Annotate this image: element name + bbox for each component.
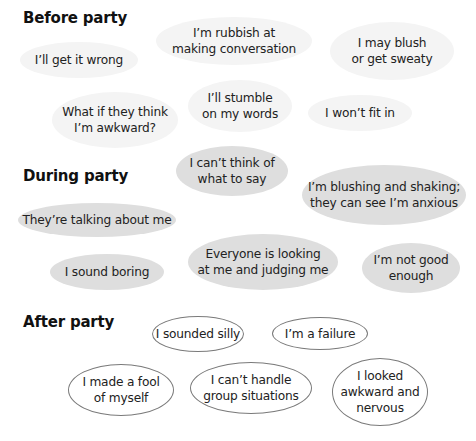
thought-bubble-during: I’m blushing and shaking; they can see I…: [302, 165, 466, 225]
thought-bubble-before: I’m rubbish at making conversation: [156, 17, 312, 65]
thought-text: I can’t handle group situations: [203, 372, 298, 404]
thought-bubble-during: I sound boring: [50, 254, 164, 290]
thought-bubble-during: I can’t think of what to say: [176, 146, 288, 196]
thought-text: What if they think I’m awkward?: [62, 104, 168, 136]
thought-bubble-after: I sounded silly: [152, 316, 244, 352]
thought-text: I sound boring: [65, 264, 150, 280]
thought-text: I made a fool of myself: [82, 374, 159, 406]
thought-text: I’ll get it wrong: [35, 52, 123, 68]
thought-text: I may blush or get sweaty: [352, 35, 433, 67]
thought-text: I won’t fit in: [325, 105, 395, 121]
thought-text: I’m blushing and shaking; they can see I…: [308, 179, 460, 211]
thought-bubble-after: I made a fool of myself: [68, 364, 174, 416]
thought-text: I’m not good enough: [373, 252, 448, 284]
thought-text: I looked awkward and nervous: [340, 368, 419, 416]
thought-text: They’re talking about me: [23, 212, 172, 228]
thought-text: I sounded silly: [156, 326, 240, 342]
thought-bubble-during: They’re talking about me: [18, 203, 176, 237]
thought-bubble-after: I’m a failure: [272, 317, 368, 350]
thought-text: I can’t think of what to say: [190, 155, 275, 187]
heading-after-party: After party: [23, 313, 114, 331]
heading-during-party: During party: [23, 167, 128, 185]
thought-text: I’m a failure: [285, 326, 355, 342]
heading-before-party: Before party: [23, 9, 127, 27]
thought-text: I’m rubbish at making conversation: [172, 25, 296, 57]
thought-bubble-after: I can’t handle group situations: [190, 362, 312, 414]
thought-bubble-before: I may blush or get sweaty: [330, 22, 454, 80]
thought-bubble-before: What if they think I’m awkward?: [52, 92, 178, 148]
thought-bubble-after: I looked awkward and nervous: [332, 358, 428, 426]
thought-bubble-during: I’m not good enough: [362, 243, 460, 293]
thought-text: I’ll stumble on my words: [202, 90, 278, 122]
thought-bubble-before: I’ll get it wrong: [20, 42, 138, 78]
thought-text: Everyone is looking at me and judging me: [198, 246, 329, 278]
thought-bubble-before: I won’t fit in: [308, 95, 412, 131]
thought-bubble-during: Everyone is looking at me and judging me: [188, 234, 338, 290]
thought-bubble-before: I’ll stumble on my words: [188, 80, 292, 132]
